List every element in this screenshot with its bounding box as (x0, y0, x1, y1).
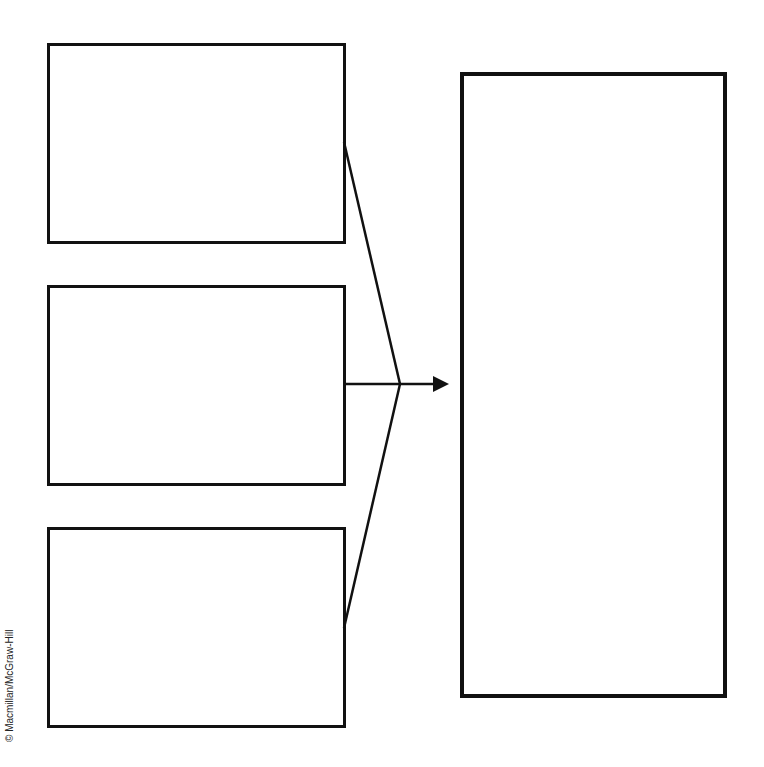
input-box-middle[interactable] (47, 285, 346, 486)
connector-top-line (344, 142, 400, 384)
input-box-bottom[interactable] (47, 527, 346, 728)
connector-bottom-line (344, 384, 400, 628)
arrow-right-icon (433, 376, 449, 392)
result-box[interactable] (460, 72, 727, 698)
input-box-top[interactable] (47, 43, 346, 244)
copyright-text: © Macmillan/McGraw-Hill (4, 630, 15, 742)
